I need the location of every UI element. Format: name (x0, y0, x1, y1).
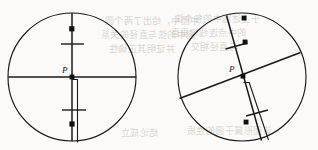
right-tick-lower (246, 110, 268, 116)
right-circle-group: P (178, 13, 306, 141)
left-circle-group: P (8, 13, 136, 143)
right-point-p-label: P (228, 64, 235, 74)
left-dot-lower (69, 121, 74, 126)
right-dot-bottom (244, 120, 249, 125)
right-dot-top (242, 16, 247, 21)
right-shallow-chord (180, 53, 301, 99)
right-point-p-marker (241, 74, 246, 79)
left-point-p-label: P (61, 65, 68, 75)
figure-svg-canvas: P P (0, 0, 318, 150)
geometry-figure-root: 中图中，给出了两个圆 圆中的弦与直径的关系 并证明其正确性 于上述圆中的各个弦 … (0, 0, 318, 150)
left-point-p-marker (70, 75, 75, 80)
left-dot-upper (69, 26, 74, 31)
right-dot-mid (243, 40, 248, 45)
